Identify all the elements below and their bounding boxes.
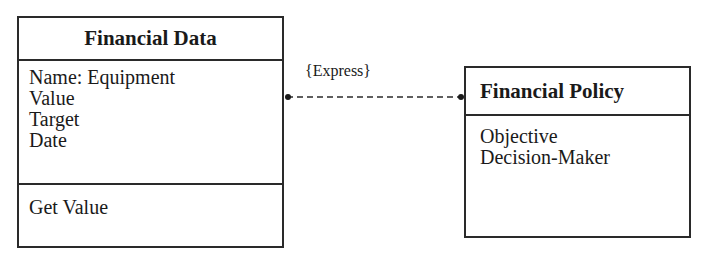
attribute: Value xyxy=(29,88,282,109)
class-name: Financial Policy xyxy=(466,68,689,116)
attributes-section: Objective Decision-Maker xyxy=(466,116,689,168)
class-financial-policy: Financial Policy Objective Decision-Make… xyxy=(464,66,691,238)
class-name: Financial Data xyxy=(19,18,282,61)
class-financial-data: Financial Data Name: Equipment Value Tar… xyxy=(17,16,284,248)
attribute: Name: Equipment xyxy=(29,67,282,88)
attributes-section: Name: Equipment Value Target Date xyxy=(19,61,282,185)
association-label: {Express} xyxy=(305,62,371,80)
attribute: Objective xyxy=(480,126,689,147)
association-end-dot-left xyxy=(285,94,291,100)
operation: Get Value xyxy=(29,197,282,218)
operations-section: Get Value xyxy=(19,185,282,218)
attribute: Target xyxy=(29,109,282,130)
attribute: Decision-Maker xyxy=(480,147,689,168)
attribute: Date xyxy=(29,130,282,151)
